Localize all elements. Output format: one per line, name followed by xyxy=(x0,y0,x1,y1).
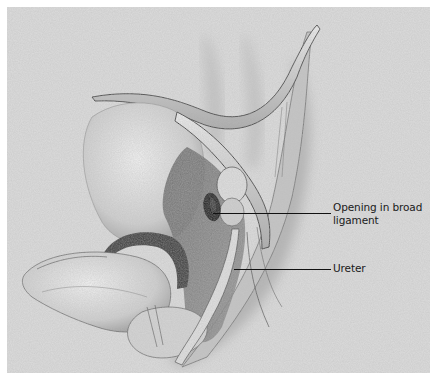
label-line-2: ligament xyxy=(333,214,422,227)
anatomy-illustration xyxy=(7,7,430,373)
grain-texture xyxy=(7,7,430,373)
illustration-frame: Opening in broad ligament Ureter xyxy=(7,7,430,373)
label-ureter: Ureter xyxy=(333,262,366,275)
label-line-1: Opening in broad xyxy=(333,201,422,214)
label-opening-in-broad-ligament: Opening in broad ligament xyxy=(333,201,422,227)
leader-line-ureter xyxy=(234,269,331,270)
leader-line-opening xyxy=(213,213,331,214)
